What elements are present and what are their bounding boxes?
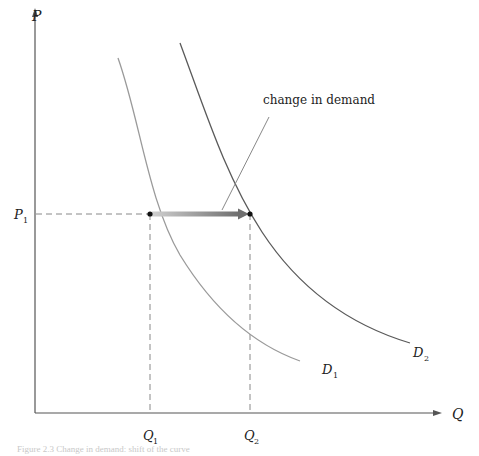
change-in-demand-annotation: change in demand (222, 93, 375, 210)
d2-label: D (412, 345, 424, 360)
figure-caption: Figure 2.3 Change in demand: shift of th… (17, 444, 190, 454)
arrowhead-icon (238, 209, 249, 220)
y-axis-label: P (31, 8, 42, 24)
price-level-p1: P 1 (13, 207, 150, 225)
x-axis-arrowhead-icon (433, 410, 442, 416)
point-q2-p1 (247, 211, 252, 216)
x-axis-label: Q (452, 406, 464, 422)
point-q1-p1 (147, 211, 152, 216)
p1-subscript: 1 (23, 216, 28, 225)
quantity-q2: Q 2 (244, 214, 259, 446)
annotation-label: change in demand (263, 93, 375, 107)
quantity-q1: Q 1 (143, 214, 158, 446)
d1-label: D (321, 362, 333, 377)
d2-subscript: 2 (424, 354, 429, 363)
d1-subscript: 1 (333, 371, 338, 380)
q2-subscript: 2 (254, 437, 259, 446)
demand-shift-diagram: P Q P 1 Q 1 Q 2 D 1 (0, 0, 479, 456)
demand-shift-arrow (152, 209, 249, 220)
y-axis: P (31, 8, 42, 413)
demand-curve-d2: D 2 (180, 43, 429, 363)
p1-label: P (13, 207, 23, 222)
